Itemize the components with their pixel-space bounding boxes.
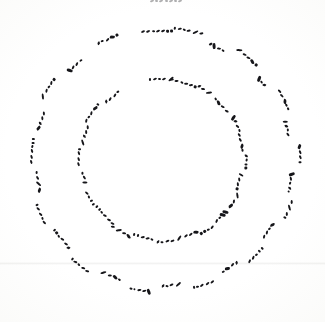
pen-stroke	[95, 205, 98, 208]
pen-stroke	[161, 284, 165, 288]
pen-stroke	[133, 233, 136, 236]
shorthand-word	[213, 97, 229, 114]
pen-stroke	[268, 227, 272, 231]
pen-stroke	[187, 30, 191, 33]
shorthand-word	[30, 136, 34, 164]
pen-stroke	[251, 255, 254, 259]
shorthand-word	[97, 33, 120, 46]
shorthand-word	[261, 222, 275, 241]
pen-stroke	[53, 228, 56, 231]
pen-stroke	[77, 162, 80, 166]
pen-stroke	[241, 149, 244, 152]
shorthand-word	[175, 230, 199, 240]
shorthand-word	[77, 146, 80, 166]
pen-stroke	[174, 27, 177, 30]
pen-stroke	[200, 283, 204, 287]
pen-stroke	[146, 30, 150, 33]
pen-stroke	[158, 78, 161, 81]
pen-stroke	[166, 284, 169, 287]
pen-stroke	[108, 274, 112, 276]
pen-stroke	[71, 65, 75, 69]
pen-stroke	[192, 30, 198, 34]
pen-stroke	[31, 145, 34, 149]
pen-stroke	[170, 79, 174, 81]
shorthand-word	[40, 77, 56, 100]
pen-stroke	[235, 124, 239, 128]
pen-stroke	[115, 34, 118, 37]
pen-stroke	[177, 28, 181, 31]
pen-stroke	[78, 151, 81, 155]
pen-stroke	[168, 77, 174, 82]
shorthand-word	[34, 170, 41, 193]
pen-stroke	[75, 62, 79, 66]
pen-stroke	[37, 188, 42, 194]
pen-stroke	[239, 177, 241, 181]
pen-stroke	[161, 29, 165, 32]
pen-stroke	[179, 81, 183, 85]
pen-stroke	[299, 161, 301, 163]
shorthand-word	[244, 154, 248, 170]
pen-stroke	[66, 68, 73, 72]
pen-stroke	[282, 98, 286, 103]
pen-stroke	[199, 32, 203, 35]
pen-stroke	[183, 234, 187, 238]
pen-stroke	[110, 36, 115, 39]
pen-stroke	[175, 80, 179, 82]
shorthand-word	[94, 204, 115, 226]
pen-stroke	[107, 218, 111, 221]
pen-stroke	[192, 286, 195, 289]
pen-stroke	[105, 37, 109, 41]
pen-stroke	[122, 232, 126, 235]
shorthand-word	[256, 76, 269, 90]
pen-stroke	[126, 234, 131, 239]
pen-stroke	[262, 83, 267, 88]
pen-stroke	[82, 181, 87, 183]
shorthand-word	[155, 240, 174, 244]
pen-stroke	[101, 40, 104, 43]
pen-stroke	[108, 96, 112, 100]
pen-stroke	[90, 199, 93, 202]
pen-stroke	[245, 167, 247, 169]
pen-stroke	[101, 271, 107, 274]
pen-stroke	[140, 235, 144, 238]
pen-stroke	[234, 261, 239, 266]
pen-stroke	[70, 257, 73, 260]
pen-stroke	[85, 119, 88, 123]
pen-stroke	[55, 231, 58, 234]
pen-stroke	[41, 216, 44, 219]
pen-stroke	[103, 214, 107, 217]
shorthand-word	[230, 115, 243, 134]
pen-stroke	[156, 30, 160, 33]
pen-stroke	[283, 121, 288, 123]
pen-stroke	[45, 89, 48, 93]
pen-stroke	[201, 88, 205, 91]
pen-stroke	[245, 159, 248, 162]
pen-stroke	[153, 78, 157, 81]
pen-stroke	[236, 187, 239, 190]
shorthand-word	[298, 144, 301, 165]
pen-stroke	[236, 192, 239, 198]
pen-stroke	[189, 84, 193, 86]
shorthand-word	[141, 30, 174, 34]
shorthand-word	[80, 170, 88, 184]
shorthand-word	[285, 172, 295, 195]
shorthand-word	[128, 285, 151, 295]
pen-stroke	[184, 83, 188, 85]
pen-stroke	[255, 63, 258, 66]
pen-stroke	[104, 99, 109, 104]
pen-stroke	[141, 30, 145, 33]
pen-stroke	[239, 138, 243, 142]
shorthand-word	[132, 233, 154, 241]
pen-stroke	[78, 263, 82, 267]
pen-stroke	[36, 181, 42, 186]
pen-stroke	[280, 94, 284, 98]
shorthand-word	[84, 190, 94, 206]
pen-stroke	[97, 41, 102, 46]
pen-stroke	[42, 111, 44, 115]
pen-stroke	[287, 205, 290, 211]
shorthand-word	[277, 89, 291, 112]
pen-stroke	[246, 56, 250, 59]
pen-stroke	[200, 232, 203, 235]
pen-stroke	[297, 144, 302, 150]
pen-stroke	[205, 281, 209, 285]
